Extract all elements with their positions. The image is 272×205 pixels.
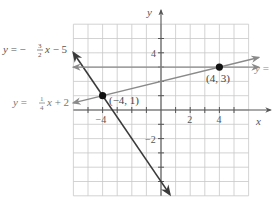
x-tick-label: −4 — [96, 114, 107, 125]
y-tick-label: 4 — [151, 48, 156, 59]
svg-text:x − 5: x − 5 — [44, 43, 68, 55]
svg-text:2: 2 — [38, 51, 42, 59]
point-label-left: (−4, 1) — [109, 94, 139, 107]
intersection-point — [99, 92, 106, 99]
x-axis-label: x — [255, 115, 261, 127]
svg-text:y =: y = — [12, 96, 27, 108]
intersection-point — [216, 64, 223, 71]
point-label-right: (4, 3) — [206, 72, 230, 85]
y-tick-label: −2 — [145, 134, 156, 145]
line-label-shallow: y = 1 4 x + 2 — [12, 95, 69, 112]
y-axis-label: y — [146, 6, 152, 18]
x-tick-label: 4 — [216, 114, 221, 125]
svg-text:1: 1 — [40, 95, 44, 103]
svg-text:y = −: y = − — [2, 43, 26, 55]
svg-text:3: 3 — [38, 42, 42, 50]
line-label-horizontal: y = — [254, 62, 269, 74]
svg-text:y =: y = — [254, 62, 269, 74]
x-tick-label: 2 — [187, 114, 192, 125]
svg-text:4: 4 — [40, 104, 44, 112]
svg-text:x + 2: x + 2 — [46, 96, 69, 108]
line-label-steep: y = − 3 2 x − 5 — [2, 42, 68, 59]
coordinate-plane-figure: −4244−2 y x y = − 3 2 x − 5 y = 1 4 x + … — [0, 0, 272, 205]
